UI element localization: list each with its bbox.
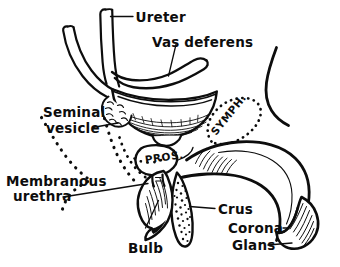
label-membranous-urethra-line2: urethra: [13, 188, 72, 204]
label-seminal-vesicle-line2: vesicle: [46, 120, 100, 136]
label-glans: Glans: [232, 237, 275, 253]
diagram-canvas: PROS. SYMPH.: [0, 0, 340, 267]
label-corona: Corona: [228, 220, 283, 236]
label-seminal-vesicle-line1: Seminal: [43, 104, 105, 120]
label-membranous-urethra-line1: Membranous: [6, 173, 107, 189]
anatomical-figure: PROS. SYMPH.: [0, 0, 340, 267]
label-vas-deferens: Vas deferens: [152, 34, 253, 50]
label-ureter: Ureter: [136, 9, 186, 25]
label-crus: Crus: [218, 201, 253, 217]
label-bulb: Bulb: [128, 240, 163, 256]
